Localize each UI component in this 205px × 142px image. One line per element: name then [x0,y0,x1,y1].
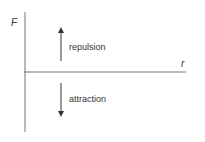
x-axis-label: r [181,58,185,69]
attraction-label: attraction [69,94,106,104]
y-axis-label: F [11,17,18,28]
force-diagram: F r repulsion attraction [0,0,205,142]
repulsion-label: repulsion [69,42,106,52]
